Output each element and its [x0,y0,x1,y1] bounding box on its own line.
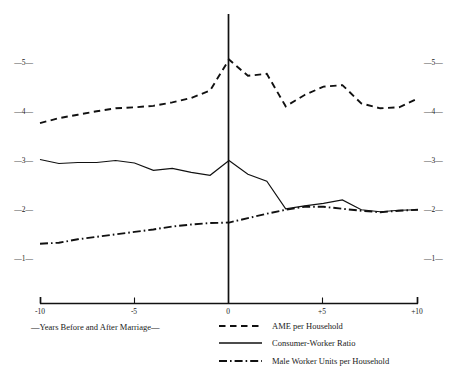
x-axis-caption: —Years Before and After Marriage— [30,322,160,332]
y-tick-label-left-4: —1— [13,254,33,263]
y-tick-label-right-2: —3— [423,156,443,165]
y-tick-label-left-3: —2— [13,205,33,214]
x-tick-label-1: -5 [131,307,137,316]
legend-item-2[interactable]: Male Worker Units per Household [219,356,390,366]
legend-label-1: Consumer-Worker Ratio [272,338,355,348]
x-tick-label-3: +5 [318,307,326,316]
x-tick-labels: -10 -5 0 +5 +10 [35,307,423,316]
x-tick-label-4: +10 [411,307,423,316]
legend-label-0: AME per Household [272,321,344,331]
y-tick-label-right-3: —2— [423,205,443,214]
legend-item-0[interactable]: AME per Household [219,321,344,331]
y-tick-label-left-1: —4— [13,107,33,116]
x-tick-label-2: 0 [226,307,230,316]
y-axis-right: —5— —4— —3— —2— —1— [423,58,443,263]
y-tick-label-right-4: —1— [423,254,443,263]
legend-label-2: Male Worker Units per Household [272,356,390,366]
legend: AME per Household Consumer-Worker Ratio … [219,321,390,366]
y-tick-label-left-2: —3— [13,156,33,165]
y-tick-label-right-1: —4— [423,107,443,116]
chart-canvas: —5— —4— —3— —2— —1— —5— —4— —3— —2— —1— … [0,0,454,380]
y-axis-left: —5— —4— —3— —2— —1— [13,58,33,263]
x-tick-label-0: -10 [35,307,45,316]
chart-figure: —5— —4— —3— —2— —1— —5— —4— —3— —2— —1— … [0,0,454,380]
y-tick-label-right-0: —5— [423,58,443,67]
legend-item-1[interactable]: Consumer-Worker Ratio [219,338,355,348]
y-tick-label-left-0: —5— [13,58,33,67]
